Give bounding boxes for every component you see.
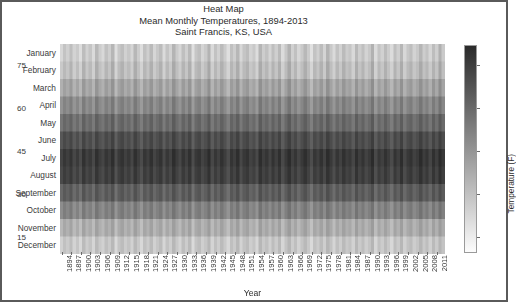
colorbar-tick-75: 75 bbox=[17, 61, 26, 70]
month-label-may: May bbox=[2, 118, 56, 128]
month-label-september: September bbox=[2, 188, 56, 198]
year-label-1930: 1930 bbox=[180, 255, 189, 272]
year-label-1921: 1921 bbox=[151, 255, 160, 272]
month-label-april: April bbox=[2, 100, 56, 110]
year-tick bbox=[90, 252, 91, 255]
colorbar-gradient bbox=[465, 46, 476, 252]
heatmap-canvas bbox=[60, 44, 445, 254]
year-label-1948: 1948 bbox=[238, 255, 247, 272]
year-label-2005: 2005 bbox=[421, 255, 430, 272]
year-tick bbox=[177, 252, 178, 255]
year-label-1915: 1915 bbox=[132, 255, 141, 272]
year-label-1906: 1906 bbox=[103, 255, 112, 272]
year-tick bbox=[350, 252, 351, 255]
year-tick bbox=[331, 252, 332, 255]
year-tick bbox=[71, 252, 72, 255]
year-label-1972: 1972 bbox=[315, 255, 324, 272]
year-tick bbox=[158, 252, 159, 255]
year-tick bbox=[398, 252, 399, 255]
year-tick bbox=[167, 252, 168, 255]
year-tick bbox=[389, 252, 390, 255]
year-label-1897: 1897 bbox=[74, 255, 83, 272]
colorbar-tickmark bbox=[477, 65, 480, 66]
year-tick bbox=[196, 252, 197, 255]
year-label-1993: 1993 bbox=[382, 255, 391, 272]
colorbar-tick-15: 15 bbox=[17, 232, 26, 241]
title-line-3: Saint Francis, KS, USA bbox=[2, 26, 445, 38]
year-tick bbox=[283, 252, 284, 255]
colorbar-tickmark bbox=[477, 194, 480, 195]
year-tick bbox=[62, 252, 63, 255]
month-label-february: February bbox=[2, 65, 56, 75]
month-label-january: January bbox=[2, 48, 56, 58]
title-line-1: Heat Map bbox=[2, 3, 445, 15]
colorbar-tickmark bbox=[477, 237, 480, 238]
colorbar-tick-30: 30 bbox=[17, 189, 26, 198]
heatmap-plot-area bbox=[60, 44, 445, 254]
month-axis-labels: JanuaryFebruaryMarchAprilMayJuneJulyAugu… bbox=[2, 44, 56, 254]
year-tick bbox=[427, 252, 428, 255]
year-label-1960: 1960 bbox=[276, 255, 285, 272]
year-label-1936: 1936 bbox=[199, 255, 208, 272]
colorbar-tick-45: 45 bbox=[17, 146, 26, 155]
colorbar-tickmark bbox=[477, 151, 480, 152]
year-tick bbox=[360, 252, 361, 255]
year-label-1963: 1963 bbox=[286, 255, 295, 272]
month-label-august: August bbox=[2, 170, 56, 180]
year-tick bbox=[418, 252, 419, 255]
month-label-december: December bbox=[2, 240, 56, 250]
year-tick bbox=[81, 252, 82, 255]
colorbar bbox=[464, 45, 477, 253]
year-label-1933: 1933 bbox=[190, 255, 199, 272]
year-label-1951: 1951 bbox=[247, 255, 256, 272]
year-label-1894: 1894 bbox=[65, 255, 74, 272]
year-label-1981: 1981 bbox=[344, 255, 353, 272]
year-tick bbox=[312, 252, 313, 255]
year-label-2002: 2002 bbox=[411, 255, 420, 272]
year-tick bbox=[321, 252, 322, 255]
year-tick bbox=[119, 252, 120, 255]
year-tick bbox=[408, 252, 409, 255]
year-label-2008: 2008 bbox=[430, 255, 439, 272]
year-tick bbox=[187, 252, 188, 255]
year-tick bbox=[216, 252, 217, 255]
colorbar-title: Temperature (F) bbox=[506, 154, 516, 213]
year-label-1924: 1924 bbox=[161, 255, 170, 272]
year-label-1900: 1900 bbox=[84, 255, 93, 272]
month-label-october: October bbox=[2, 205, 56, 215]
year-tick bbox=[302, 252, 303, 255]
year-tick bbox=[293, 252, 294, 255]
year-axis-labels: 1894189719001903190619091912191519181921… bbox=[60, 255, 445, 289]
year-label-1909: 1909 bbox=[113, 255, 122, 272]
year-label-1903: 1903 bbox=[93, 255, 102, 272]
year-label-1999: 1999 bbox=[401, 255, 410, 272]
year-label-1912: 1912 bbox=[122, 255, 131, 272]
year-label-1984: 1984 bbox=[353, 255, 362, 272]
year-tick bbox=[129, 252, 130, 255]
year-tick bbox=[235, 252, 236, 255]
year-label-1954: 1954 bbox=[257, 255, 266, 272]
month-label-june: June bbox=[2, 135, 56, 145]
year-label-1927: 1927 bbox=[170, 255, 179, 272]
year-label-1942: 1942 bbox=[219, 255, 228, 272]
year-tick bbox=[110, 252, 111, 255]
year-label-1945: 1945 bbox=[228, 255, 237, 272]
year-tick bbox=[206, 252, 207, 255]
colorbar-tickmark bbox=[477, 108, 480, 109]
year-tick bbox=[244, 252, 245, 255]
year-label-1978: 1978 bbox=[334, 255, 343, 272]
year-label-1990: 1990 bbox=[373, 255, 382, 272]
year-tick bbox=[370, 252, 371, 255]
year-tick bbox=[437, 252, 438, 255]
year-tick bbox=[341, 252, 342, 255]
colorbar-tick-60: 60 bbox=[17, 103, 26, 112]
year-tick bbox=[273, 252, 274, 255]
year-label-1987: 1987 bbox=[363, 255, 372, 272]
x-axis-title: Year bbox=[60, 288, 445, 298]
year-tick bbox=[254, 252, 255, 255]
month-label-march: March bbox=[2, 83, 56, 93]
year-label-2011: 2011 bbox=[440, 255, 449, 271]
year-tick bbox=[100, 252, 101, 255]
month-label-november: November bbox=[2, 223, 56, 233]
